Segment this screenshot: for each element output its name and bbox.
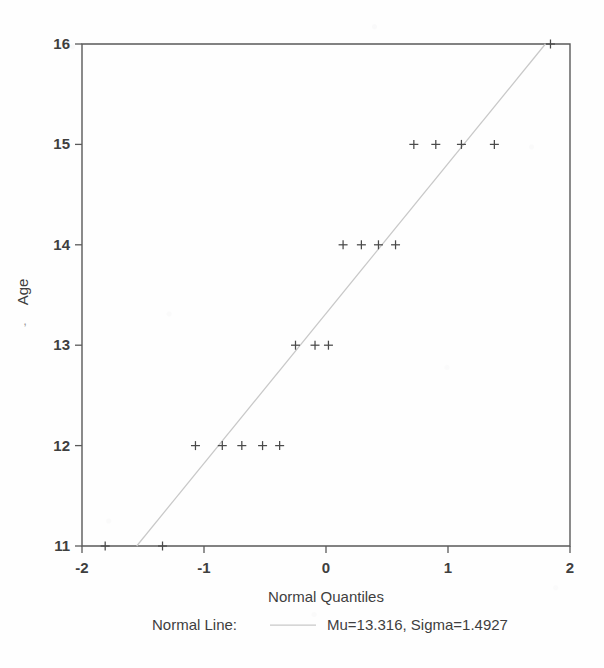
data-point <box>357 240 366 249</box>
qq-plot-figure: 111213141516 -2-1012 Age , Normal Quanti… <box>0 0 604 668</box>
data-point <box>409 140 418 149</box>
data-point <box>490 140 499 149</box>
data-point <box>101 542 110 551</box>
y-tick-label: 16 <box>53 35 70 52</box>
normal-reference-line <box>137 44 546 546</box>
y-tick-label: 12 <box>53 437 70 454</box>
data-point <box>324 341 333 350</box>
y-tick-label: 15 <box>53 135 70 152</box>
data-point <box>291 341 300 350</box>
data-point <box>158 542 167 551</box>
x-tick-label: 0 <box>322 559 330 576</box>
data-point <box>339 240 348 249</box>
x-tick-label: -1 <box>197 559 210 576</box>
data-point <box>218 441 227 450</box>
y-axis-ticks: 111213141516 <box>53 35 82 554</box>
x-tick-label: 1 <box>444 559 452 576</box>
data-point <box>275 441 284 450</box>
data-point <box>391 240 400 249</box>
x-tick-label: -2 <box>75 559 88 576</box>
data-point <box>237 441 246 450</box>
data-point <box>546 40 555 49</box>
y-axis-title: Age <box>14 279 31 306</box>
normal-line <box>137 44 546 546</box>
legend-series-label: Normal Line: <box>152 616 237 633</box>
data-point <box>191 441 200 450</box>
y-tick-label: 11 <box>54 537 70 554</box>
x-axis-title: Normal Quantiles <box>268 588 384 605</box>
qq-plot-canvas: 111213141516 -2-1012 Age , Normal Quanti… <box>0 0 604 668</box>
legend-series-value: Mu=13.316, Sigma=1.4927 <box>327 616 508 633</box>
data-point <box>311 341 320 350</box>
data-point <box>457 140 466 149</box>
plot-frame <box>82 44 570 546</box>
legend: Normal Line: Mu=13.316, Sigma=1.4927 <box>152 616 508 633</box>
x-tick-label: 2 <box>566 559 574 576</box>
data-point <box>374 240 383 249</box>
y-axis-title-artifact: , <box>23 313 27 328</box>
y-tick-label: 13 <box>53 336 70 353</box>
y-tick-label: 14 <box>53 236 70 253</box>
data-point <box>431 140 440 149</box>
x-axis-ticks: -2-1012 <box>75 546 574 576</box>
data-point <box>258 441 267 450</box>
